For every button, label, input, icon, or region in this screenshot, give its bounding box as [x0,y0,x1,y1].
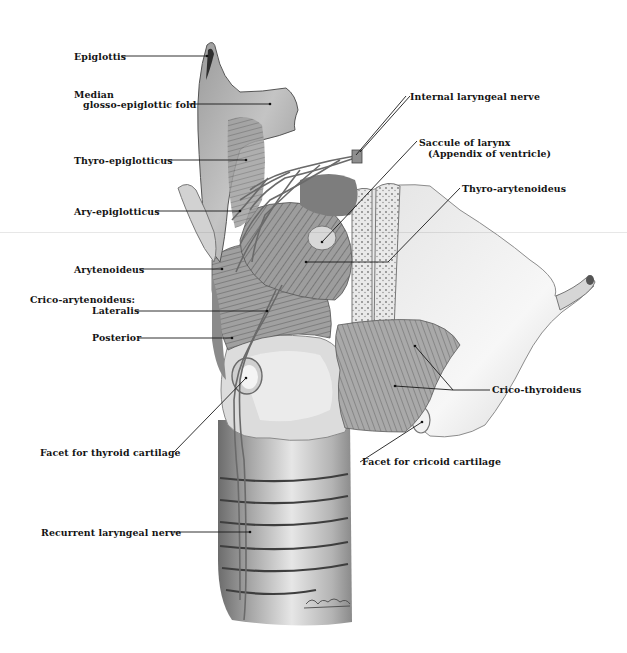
label-thyro-epiglotticus: Thyro-epiglotticus [74,155,173,166]
label-lateralis: Lateralis [92,305,139,316]
scan-artifact-line [0,232,627,233]
label-internal-laryngeal-nerve: Internal laryngeal nerve [410,91,540,102]
label-median-fold-line2: glosso-epiglottic fold [83,99,196,110]
label-crico-thyroideus: Crico-thyroideus [492,384,581,395]
label-epiglottis: Epiglottis [74,51,126,62]
label-thyro-arytenoideus: Thyro-arytenoideus [462,183,566,194]
label-posterior: Posterior [92,332,141,343]
label-arytenoideus: Arytenoideus [74,264,144,275]
label-saccule-line1: Saccule of larynx [419,137,511,148]
label-crico-arytenoideus: Crico-arytenoideus: [30,294,135,305]
trachea [218,420,352,626]
label-saccule-line2: (Appendix of ventricle) [428,148,551,159]
anatomy-figure: Epiglottis Median glosso-epiglottic fold… [0,0,627,653]
label-recurrent-laryngeal-nerve: Recurrent laryngeal nerve [41,527,181,538]
label-facet-thyroid: Facet for thyroid cartilage [40,447,181,458]
label-facet-cricoid: Facet for cricoid cartilage [362,456,501,467]
label-ary-epiglotticus: Ary-epiglotticus [74,206,160,217]
